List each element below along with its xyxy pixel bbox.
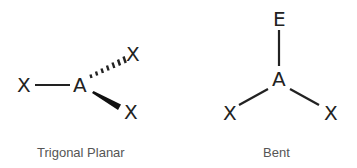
bent-caption: Bent bbox=[263, 145, 290, 160]
trigonal-solid-wedge-bond bbox=[92, 91, 121, 110]
diagram-canvas: X A X X Trigonal Planar bbox=[0, 0, 357, 168]
bent-top-ligand: E bbox=[273, 7, 286, 31]
trigonal-planar-structure: X A X X Trigonal Planar bbox=[17, 42, 140, 160]
trigonal-lower-right-ligand: X bbox=[124, 100, 138, 124]
bent-central-atom: A bbox=[272, 67, 286, 91]
bent-lower-left-ligand: X bbox=[223, 101, 237, 125]
trigonal-left-ligand: X bbox=[17, 73, 31, 97]
bent-structure: E A X X Bent bbox=[223, 7, 338, 160]
trigonal-upper-right-ligand: X bbox=[126, 42, 140, 66]
trigonal-hashed-wedge-bond bbox=[91, 57, 126, 79]
trigonal-central-atom: A bbox=[73, 73, 87, 97]
bent-left-bond bbox=[239, 89, 268, 105]
bent-right-bond bbox=[290, 89, 319, 105]
bent-lower-right-ligand: X bbox=[324, 101, 338, 125]
trigonal-planar-caption: Trigonal Planar bbox=[37, 145, 125, 160]
